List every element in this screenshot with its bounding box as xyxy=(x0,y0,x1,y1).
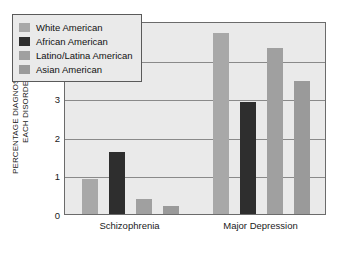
legend: White AmericanAfrican AmericanLatino/Lat… xyxy=(12,14,142,82)
legend-swatch-icon xyxy=(19,23,30,32)
legend-item: Latino/Latina American xyxy=(19,48,133,62)
bar xyxy=(109,152,125,214)
x-category-label: Schizophrenia xyxy=(99,220,159,231)
legend-label: White American xyxy=(36,22,103,33)
x-category-label: Major Depression xyxy=(223,220,297,231)
legend-label: Latino/Latina American xyxy=(36,50,133,61)
legend-swatch-icon xyxy=(19,65,30,74)
legend-label: African American xyxy=(36,36,108,47)
legend-item: Asian American xyxy=(19,62,133,76)
y-tick-label-2: 2 xyxy=(46,132,60,143)
bar xyxy=(267,48,283,214)
bar xyxy=(240,102,256,214)
legend-swatch-icon xyxy=(19,51,30,60)
y-tick-label-1: 1 xyxy=(46,171,60,182)
bar xyxy=(294,81,310,214)
bar xyxy=(82,179,98,214)
y-tick-label-3: 3 xyxy=(46,94,60,105)
chart-screenshot: PERCENTAGE DIAGNOSED WITH EACH DISORDER … xyxy=(0,0,341,255)
y-tick-label-0: 0 xyxy=(46,210,60,221)
legend-item: African American xyxy=(19,34,133,48)
legend-label: Asian American xyxy=(36,64,102,75)
legend-item: White American xyxy=(19,20,133,34)
bar xyxy=(136,199,152,214)
bar xyxy=(163,206,179,214)
bar xyxy=(213,33,229,214)
legend-swatch-icon xyxy=(19,37,30,46)
